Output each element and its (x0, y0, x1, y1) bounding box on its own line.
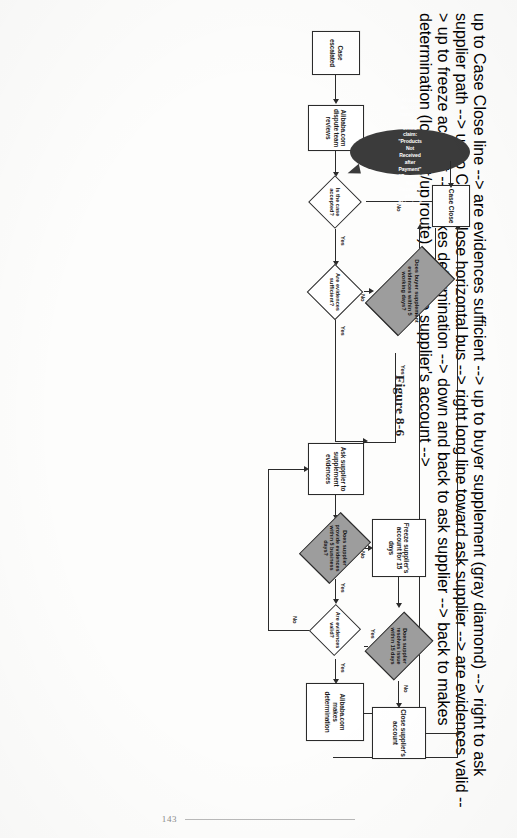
node-case-escalated[interactable]: Case escalated (312, 31, 360, 75)
node-label: Does supplier resolves issue within 15 d… (362, 609, 436, 683)
node-label: Ask supplier to supplement evidences (324, 445, 347, 493)
edge-valid-no-h (267, 469, 268, 631)
node-label: Case escalated (328, 33, 343, 73)
node-ask-supplier[interactable]: Ask supplier to supplement evidences (308, 443, 364, 495)
edge-escalated-to-review (334, 75, 335, 101)
node-does-buyer-supplement[interactable]: Does buyer supplement evidences within 5… (368, 229, 452, 353)
arrowhead (448, 183, 454, 188)
edge-closeaccount-to-caseclose (456, 228, 457, 758)
edge-valid-no-v2 (268, 469, 305, 470)
node-are-evidences-sufficient[interactable]: Are evidences sufficient? (306, 263, 364, 321)
node-does-supplier-resolve[interactable]: Does supplier resolves issue within 15 d… (362, 609, 436, 683)
page-footer: 143 (0, 814, 517, 824)
flowchart-canvas: up to Case Close line --> No are evidenc… (18, 13, 488, 813)
arrowhead (333, 99, 339, 104)
node-label: Alibaba.com dispute team reviews (324, 107, 347, 149)
edge-sufficient-yes-h (334, 319, 335, 441)
node-label: Are evidences valid? (310, 603, 360, 657)
node-is-case-accepted[interactable]: Is the case accepted? (308, 175, 362, 229)
node-makes-determination[interactable]: Alibaba.com makes determination (306, 683, 364, 741)
arrowhead (396, 603, 402, 608)
edge-resolves-yes-v (364, 646, 368, 647)
node-close-supplier-account[interactable]: Close supplier's account (372, 707, 426, 759)
node-label: Are evidences sufficient? (306, 263, 364, 321)
annotation-scope-callout: Alibaba will only handle 2 types of offl… (350, 129, 470, 175)
edge-label-yes: Yes (370, 629, 376, 639)
node-label: Freeze supplier's account for 15 days (387, 521, 410, 575)
edge-freeze-resolves-line (397, 577, 398, 605)
node-label: Close supplier's account (391, 709, 406, 757)
edge-label-yes: Yes (400, 365, 406, 375)
node-label: Alibaba.com makes determination (323, 685, 346, 739)
edge-valid-yes (334, 659, 335, 681)
annotation-label: Alibaba will only handle 2 types of offl… (397, 97, 423, 207)
scanned-page: up to Case Close line --> No are evidenc… (0, 0, 517, 838)
folio-number: 143 (162, 814, 177, 824)
edge-label-yes: Yes (340, 326, 346, 336)
node-freeze-account[interactable]: Freeze supplier's account for 15 days (372, 519, 426, 577)
edge-label-no: No (292, 616, 298, 624)
edge-accepted-yes (334, 229, 335, 263)
edge-label-yes: Yes (340, 236, 346, 246)
node-does-supplier-provide[interactable]: Does supplier provide evidences within 5… (292, 513, 378, 583)
node-label: Does supplier provide evidences within 5… (292, 513, 378, 583)
node-label: Case Close (447, 189, 455, 224)
figure-caption: Figure 8-6 (392, 375, 408, 495)
node-case-close[interactable]: Case Close (432, 185, 470, 227)
node-label: Does buyer supplement evidences within 5… (368, 229, 452, 353)
edge-closeaccount-up (426, 733, 458, 734)
arrowhead (457, 730, 462, 736)
edge-review-to-accepted (334, 150, 335, 174)
edge-label-no: No (403, 685, 409, 693)
node-label: Is the case accepted? (308, 175, 362, 229)
folio-rule (185, 819, 355, 820)
node-are-evidences-valid[interactable]: Are evidences valid? (310, 603, 360, 657)
edge-buyer-yes-v (364, 442, 396, 443)
edge-sufficient-yes-v (335, 441, 364, 442)
edge-resolves-no (397, 681, 398, 705)
edge-into-caseclose-left (449, 161, 450, 185)
edge-label-yes: Yes (340, 663, 346, 673)
edge-label-yes: Yes (340, 583, 346, 593)
